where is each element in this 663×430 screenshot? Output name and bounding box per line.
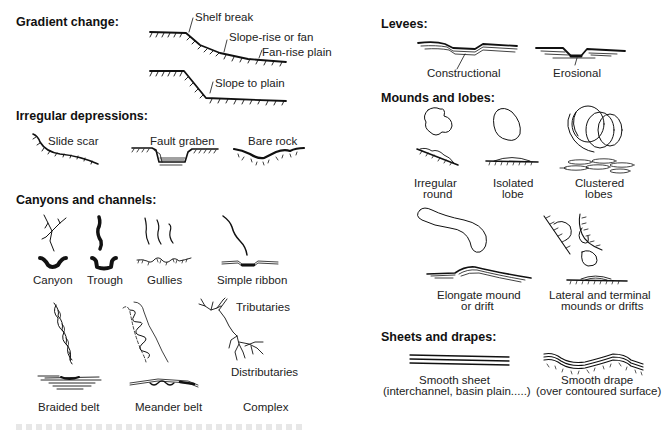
label-slide-scar: Slide scar [48, 135, 99, 147]
gullies-plan-diagram [142, 216, 178, 248]
smooth-sheet-diagram [407, 352, 512, 368]
meander-belt-section-diagram [128, 375, 200, 391]
label-trough: Trough [87, 274, 123, 286]
meander-belt-plan-diagram [120, 300, 170, 365]
fault-graben-diagram [130, 146, 220, 168]
lateral-terminal-mounds-section-diagram [565, 273, 630, 285]
label-bare-rock: Bare rock [248, 135, 297, 147]
label-isolated-lobe-2: lobe [502, 188, 524, 200]
label-fan-rise-plain: Fan-rise plain [262, 46, 332, 58]
constructional-levee-diagram [415, 40, 520, 70]
figure-caption-partial [16, 424, 306, 430]
label-smooth-sheet-2: (interchannel, basin plain.....) [383, 385, 531, 397]
heading-canyons-and-channels: Canyons and channels: [16, 193, 156, 207]
label-slope-rise-or-fan: Slope-rise or fan [229, 31, 313, 43]
label-canyon: Canyon [33, 274, 73, 286]
gullies-section-diagram [135, 255, 193, 267]
simple-ribbon-section-diagram [220, 259, 280, 269]
heading-levees: Levees: [381, 17, 428, 31]
label-erosional: Erosional [553, 67, 601, 79]
canyon-plan-diagram [40, 213, 70, 253]
label-distributaries: Distributaries [231, 366, 298, 378]
braided-belt-plan-diagram [48, 300, 82, 365]
label-complex: Complex [243, 401, 288, 413]
canyon-section-diagram [38, 255, 68, 271]
label-smooth-drape-2: (over contoured surface) [536, 385, 661, 397]
erosional-levee-diagram [533, 44, 627, 66]
heading-mounds-and-lobes: Mounds and lobes: [381, 91, 495, 105]
label-braided-belt: Braided belt [38, 401, 99, 413]
irregular-round-section-diagram [414, 145, 460, 169]
label-gullies: Gullies [147, 274, 182, 286]
label-tributaries: Tributaries [236, 301, 290, 313]
heading-sheets-and-drapes: Sheets and drapes: [381, 330, 496, 344]
label-fault-graben: Fault graben [150, 135, 215, 147]
trough-plan-diagram [93, 215, 107, 251]
label-shelf-break: Shelf break [195, 11, 253, 23]
label-lateral-terminal-2: mounds or drifts [561, 300, 643, 312]
label-constructional: Constructional [427, 67, 501, 79]
lateral-terminal-mounds-plan-diagram [542, 212, 612, 270]
isolated-lobe-plan-diagram [490, 106, 526, 144]
label-slope-to-plain: Slope to plain [215, 77, 285, 89]
heading-gradient-change: Gradient change: [16, 15, 119, 29]
elongate-mound-section-diagram [425, 264, 535, 286]
trough-section-diagram [90, 255, 118, 271]
label-elongate-mound-2: or drift [461, 300, 494, 312]
label-clustered-lobes-2: lobes [585, 188, 613, 200]
isolated-lobe-section-diagram [484, 155, 540, 167]
label-simple-ribbon: Simple ribbon [217, 274, 287, 286]
heading-irregular-depressions: Irregular depressions: [16, 109, 148, 123]
elongate-mound-plan-diagram [414, 206, 494, 256]
clustered-lobes-section-diagram [558, 158, 638, 176]
bare-rock-diagram [232, 146, 307, 168]
label-meander-belt: Meander belt [135, 401, 202, 413]
smooth-drape-diagram [541, 350, 646, 376]
clustered-lobes-plan-diagram [564, 104, 626, 154]
label-irregular-round-2: round [423, 188, 452, 200]
braided-belt-section-diagram [35, 372, 105, 394]
irregular-round-plan-diagram [420, 106, 460, 140]
simple-ribbon-plan-diagram [220, 213, 255, 257]
